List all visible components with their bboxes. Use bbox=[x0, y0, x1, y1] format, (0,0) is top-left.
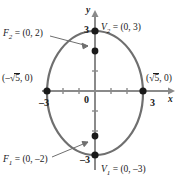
point-focus-top bbox=[92, 48, 99, 55]
covertex-right-label: (√5, 0) bbox=[146, 73, 172, 84]
focus-top-coords: = (0, 2) bbox=[12, 28, 43, 38]
vertex-bottom-label: V1 = (0, –3) bbox=[101, 165, 146, 177]
point-vertex-bottom bbox=[91, 151, 98, 158]
y-axis-label: y bbox=[86, 6, 90, 16]
point-covertex-left bbox=[43, 87, 50, 94]
vertex-top-coords: = (0, 3) bbox=[110, 22, 141, 32]
tick-label-y-minus-3: –3 bbox=[80, 155, 90, 165]
covertex-right-close: , 0) bbox=[159, 73, 172, 83]
focus-bottom-coords: = (0, –2) bbox=[12, 154, 47, 164]
covertex-left-close: , 0) bbox=[20, 73, 33, 83]
point-focus-bottom bbox=[92, 133, 99, 140]
point-vertex-top bbox=[91, 27, 98, 34]
focus-top-label: F2 = (0, 2) bbox=[3, 29, 43, 41]
x-axis-label: x bbox=[168, 95, 173, 105]
focus-bottom-label: F1 = (0, –2) bbox=[3, 155, 48, 167]
covertex-left-label: (–√5, 0) bbox=[2, 73, 33, 84]
point-covertex-right bbox=[139, 87, 146, 94]
leader-lines bbox=[50, 36, 88, 157]
tick-label-y-3: 3 bbox=[84, 25, 89, 35]
vertex-bottom-coords: = (0, –3) bbox=[110, 164, 145, 174]
vertex-top-label: V2 = (0, 3) bbox=[101, 23, 141, 35]
tick-label-x-3: 3 bbox=[150, 98, 155, 108]
x-axis bbox=[42, 88, 175, 95]
ellipse-figure: V2 = (0, 3) V1 = (0, –3) F2 = (0, 2) F1 … bbox=[0, 0, 188, 187]
tick-label-x-minus-3: –3 bbox=[39, 98, 49, 108]
covertex-left-open: (– bbox=[2, 73, 10, 83]
origin-label: 0 bbox=[84, 95, 89, 105]
